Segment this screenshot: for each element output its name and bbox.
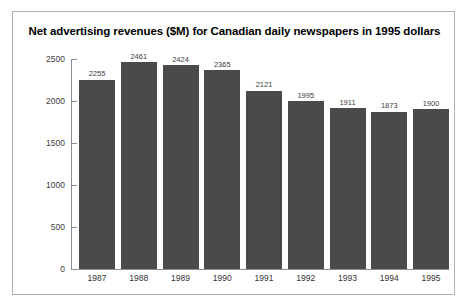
x-axis-tick-label: 1991 — [246, 274, 282, 283]
y-axis-tick-label: 2000 — [13, 97, 65, 106]
y-axis-tick-label: 0 — [13, 265, 65, 274]
chart-figure: Net advertising revenues ($M) for Canadi… — [12, 11, 455, 295]
bar-value-label: 1900 — [407, 100, 455, 108]
bar — [163, 65, 199, 269]
x-axis-tick-label: 1989 — [163, 274, 199, 283]
x-axis-labels: 198719881989199019911992199319941995 — [79, 274, 449, 283]
bar-value-label: 2121 — [240, 81, 288, 89]
bar-slot: 2255 — [79, 59, 115, 269]
y-axis-tick-label: 1500 — [13, 139, 65, 148]
x-axis-tick-label: 1993 — [330, 274, 366, 283]
bar-slot: 1995 — [288, 59, 324, 269]
bar-slot: 2121 — [246, 59, 282, 269]
x-axis-line — [71, 269, 449, 270]
bar-value-label: 2255 — [73, 70, 121, 78]
x-axis-tick-label: 1992 — [288, 274, 324, 283]
bar — [79, 80, 115, 269]
x-axis-tick-label: 1988 — [121, 274, 157, 283]
y-axis-tick-label: 2500 — [13, 55, 65, 64]
bar-slot: 2365 — [204, 59, 240, 269]
y-axis-line — [71, 59, 72, 269]
bar — [204, 70, 240, 269]
plot-area: 05001000150020002500 2255246124242365212… — [13, 12, 456, 296]
y-axis-tick-label: 500 — [13, 223, 65, 232]
bar-series: 225524612424236521211995191118731900 — [79, 59, 449, 269]
y-axis-tick — [71, 269, 77, 270]
x-axis-tick-label: 1987 — [79, 274, 115, 283]
bar — [371, 112, 407, 269]
bar-slot: 2424 — [163, 59, 199, 269]
y-axis-tick-label: 1000 — [13, 181, 65, 190]
bar-slot: 2461 — [121, 59, 157, 269]
bar — [246, 91, 282, 269]
y-axis-tick — [71, 101, 77, 102]
y-axis-tick — [71, 59, 77, 60]
y-axis-tick — [71, 143, 77, 144]
bar-value-label: 2365 — [198, 61, 246, 69]
bar — [121, 62, 157, 269]
y-axis-tick — [71, 227, 77, 228]
x-axis-tick-label: 1990 — [204, 274, 240, 283]
x-axis-tick-label: 1994 — [371, 274, 407, 283]
bar-slot: 1900 — [413, 59, 449, 269]
bar-slot: 1873 — [371, 59, 407, 269]
x-axis-tick-label: 1995 — [413, 274, 449, 283]
bar — [413, 109, 449, 269]
y-axis-tick — [71, 185, 77, 186]
bar — [288, 101, 324, 269]
bar-slot: 1911 — [330, 59, 366, 269]
bar — [330, 108, 366, 269]
